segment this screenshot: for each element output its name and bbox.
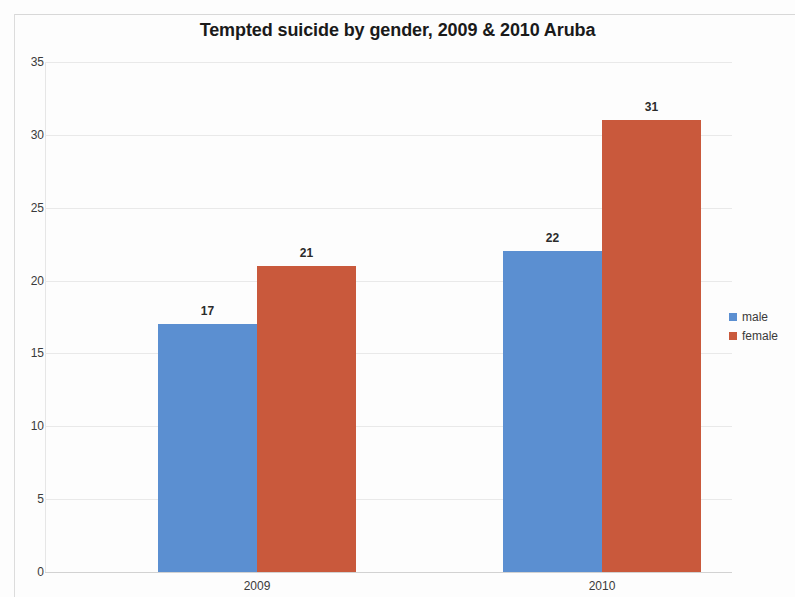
legend-item-female[interactable]: female [729, 326, 778, 345]
y-axis-tick-label: 0 [14, 565, 44, 579]
y-axis-tick-label: 5 [14, 492, 44, 506]
gridline [45, 572, 732, 573]
legend-swatch-female [729, 332, 737, 340]
bar-male-2009: 17 [158, 324, 257, 572]
legend-label: male [742, 310, 768, 324]
x-axis-tick-label-2010: 2010 [589, 579, 616, 593]
bar-female-2010: 31 [602, 120, 701, 572]
legend-swatch-male [729, 313, 737, 321]
bar-male-2010: 22 [503, 251, 602, 572]
bar-female-2009: 21 [257, 266, 356, 572]
scan-border-top [14, 14, 795, 15]
bar-value-label: 22 [546, 231, 559, 245]
chart-title: Tempted suicide by gender, 2009 & 2010 A… [0, 20, 795, 41]
y-axis-tick-label: 35 [14, 55, 44, 69]
bar-value-label: 21 [300, 246, 313, 260]
plot-area: 17212231 [45, 62, 732, 572]
legend-item-male[interactable]: male [729, 307, 778, 326]
plot-frame-left [45, 62, 46, 572]
y-axis-tick-label: 10 [14, 419, 44, 433]
legend-label: female [742, 329, 778, 343]
y-axis-tick-label: 30 [14, 128, 44, 142]
y-axis-tick-label: 20 [14, 274, 44, 288]
chart-figure: Tempted suicide by gender, 2009 & 2010 A… [0, 0, 795, 597]
gridline [45, 62, 732, 63]
chart-legend: malefemale [729, 307, 778, 345]
y-axis-tick-label: 15 [14, 346, 44, 360]
x-axis-tick-label-2009: 2009 [244, 579, 271, 593]
scan-border-left [14, 14, 15, 597]
bar-value-label: 17 [201, 304, 214, 318]
bar-value-label: 31 [645, 100, 658, 114]
y-axis-tick-label: 25 [14, 201, 44, 215]
